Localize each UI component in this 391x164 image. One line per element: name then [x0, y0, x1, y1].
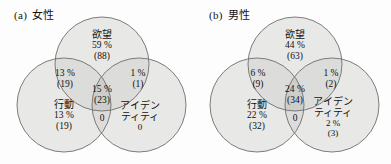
venn-svg-b: [195, 0, 391, 164]
panel-male: (b)男性: [195, 0, 391, 164]
venn-figure: (a)女性: [0, 0, 391, 164]
venn-svg-a: [0, 0, 196, 164]
panel-female: (a)女性: [0, 0, 196, 164]
venn-diagram-b: [195, 0, 391, 164]
venn-diagram-a: [0, 0, 196, 164]
